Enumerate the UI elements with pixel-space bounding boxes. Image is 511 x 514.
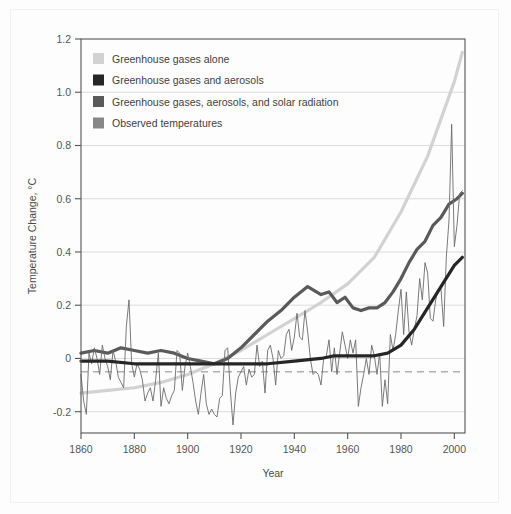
legend-label: Observed temperatures: [112, 117, 222, 129]
x-tick-label: 2000: [443, 443, 467, 455]
y-tick-label: 0.4: [56, 246, 71, 258]
y-axis-tick-labels: -0.200.20.40.60.81.01.2: [53, 33, 71, 418]
x-tick-label: 1900: [176, 443, 200, 455]
x-tick-label: 1920: [229, 443, 253, 455]
y-tick-label: 0: [65, 352, 71, 364]
legend-swatch: [93, 118, 104, 129]
y-tick-label: 1.2: [56, 33, 71, 45]
x-tick-label: 1880: [123, 443, 147, 455]
legend-swatch: [93, 96, 104, 107]
y-tick-label: 0.6: [56, 193, 71, 205]
x-axis-label: Year: [262, 467, 284, 479]
y-tick-label: 0.8: [56, 139, 71, 151]
x-tick-label: 1960: [336, 443, 360, 455]
legend-swatch: [93, 53, 104, 64]
x-axis-ticks: [81, 433, 454, 439]
series-line-observed: [81, 124, 462, 425]
legend-label: Greenhouse gases and aerosols: [112, 74, 264, 86]
y-axis-label: Temperature Change, °C: [26, 177, 38, 294]
x-tick-label: 1980: [389, 443, 413, 455]
y-tick-label: 1.0: [56, 86, 71, 98]
x-axis-tick-labels: 18601880190019201940196019802000: [69, 443, 466, 455]
chart-canvas: 18601880190019201940196019802000 -0.200.…: [0, 0, 511, 514]
data-series-layer: [81, 52, 462, 425]
figure-container: 18601880190019201940196019802000 -0.200.…: [0, 0, 511, 514]
y-axis-ticks: [75, 39, 81, 412]
legend: Greenhouse gases aloneGreenhouse gases a…: [93, 53, 339, 130]
x-tick-label: 1860: [69, 443, 93, 455]
y-tick-label: 0.2: [56, 299, 71, 311]
legend-label: Greenhouse gases, aerosols, and solar ra…: [112, 96, 339, 108]
legend-swatch: [93, 75, 104, 86]
x-tick-label: 1940: [283, 443, 307, 455]
legend-label: Greenhouse gases alone: [112, 53, 229, 65]
y-tick-label: -0.2: [53, 406, 71, 418]
